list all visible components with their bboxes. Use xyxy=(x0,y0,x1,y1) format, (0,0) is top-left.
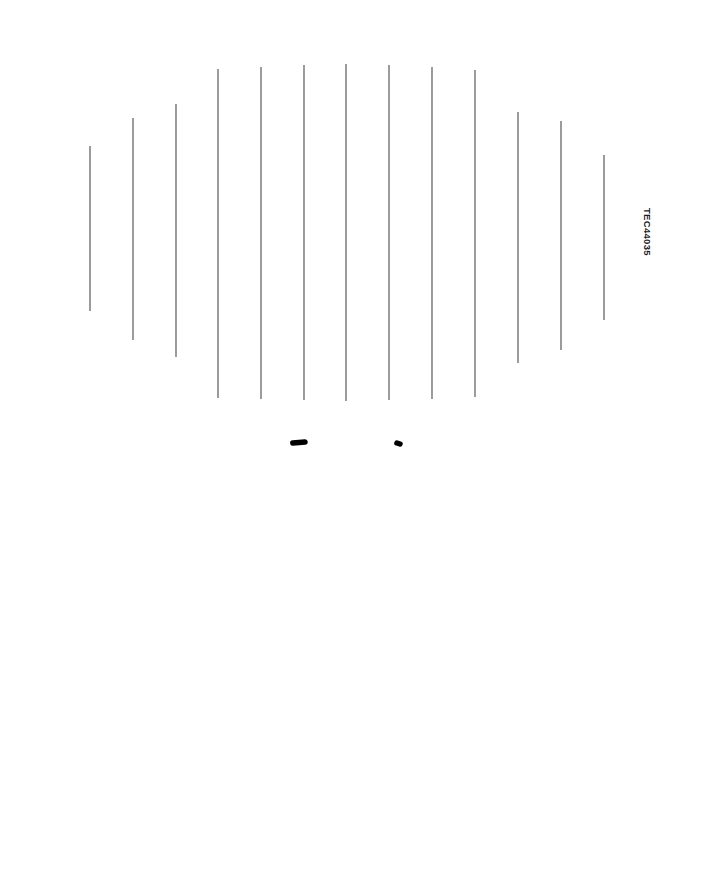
upper-lobe-outline xyxy=(397,443,400,444)
part-code-label: TEC44035 xyxy=(642,208,653,256)
pattern-page: TEC44035 xyxy=(0,0,703,879)
hatch-fill xyxy=(90,64,604,401)
lower-lobe-outline xyxy=(293,442,305,443)
figure-outline xyxy=(293,442,400,444)
hourglass-figure xyxy=(0,0,703,879)
